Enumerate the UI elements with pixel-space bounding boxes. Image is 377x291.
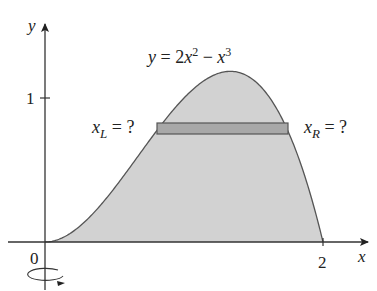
x-left-rest: = ?: [107, 117, 134, 137]
eq-minus: −: [198, 47, 217, 67]
eq-equals: = 2: [156, 47, 184, 67]
y-tick-label: 1: [26, 89, 35, 108]
eq-x1: x: [183, 47, 192, 67]
diagram-canvas: y x 1 2 0 y = 2x2 − x3 xL = ? xR = ?: [0, 0, 377, 291]
eq-exp2: 3: [225, 45, 231, 59]
x-right-var: x: [303, 117, 312, 137]
rotation-arrowhead-icon: [57, 281, 65, 286]
x-tick-label: 2: [318, 253, 327, 272]
x-left-var: x: [91, 117, 100, 137]
x-left-label: xL = ?: [91, 117, 134, 141]
x-right-rest: = ?: [320, 117, 347, 137]
eq-x2: x: [216, 47, 225, 67]
y-axis-label: y: [26, 16, 36, 35]
eq-y: y: [146, 47, 156, 67]
x-right-sub: R: [311, 126, 320, 141]
x-axis-label: x: [357, 247, 366, 266]
horizontal-strip: [157, 123, 288, 134]
shaded-region: [45, 71, 323, 242]
curve-equation: y = 2x2 − x3: [146, 45, 231, 67]
origin-label: 0: [30, 249, 39, 268]
x-right-label: xR = ?: [303, 117, 347, 141]
x-left-sub: L: [99, 126, 107, 141]
